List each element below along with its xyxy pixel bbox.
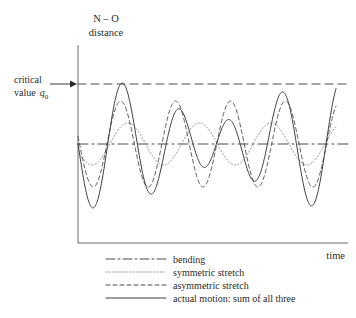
critical-value-word: value [14,87,36,98]
critical-value-label-line1: critical [14,74,42,85]
legend-label-actual-motion: actual motion: sum of all three [173,293,296,304]
legend-label-symmetric-stretch: symmetric stretch [173,267,244,278]
legend-label-asymmetric-stretch: asymmetric stretch [173,280,249,291]
x-axis-label: time [326,250,345,261]
y-axis-label-line1: N – O [93,13,119,24]
y-axis-label-line2: distance [89,27,124,38]
critical-value-subscript: 0 [45,93,49,101]
legend-label-bending: bending [173,254,205,265]
vibration-mode-chart: N – O distance time critical valueq0 ben… [0,0,356,318]
